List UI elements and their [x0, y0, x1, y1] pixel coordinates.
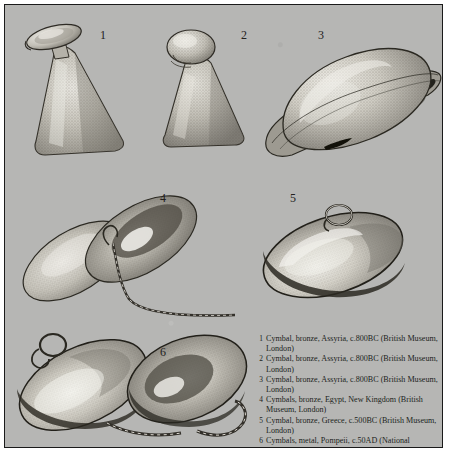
caption-entry-2: 2 Cymbal, bronze, Assyria, c.800BC (Brit…: [255, 354, 441, 374]
illustration-plate: 1 2 3 4 5 6 1 Cymbal, bronze, Assyria, c…: [4, 4, 443, 448]
caption-index: 5: [255, 416, 266, 436]
caption-index: 2: [255, 354, 266, 374]
caption-entry-1: 1 Cymbal, bronze, Assyria, c.800BC (Brit…: [255, 334, 441, 354]
figure-number-4: 4: [160, 192, 166, 204]
caption-entry-3: 3 Cymbal, bronze, Assyria, c.800BC (Brit…: [255, 375, 441, 395]
caption-entry-5: 5 Cymbal, bronze, Greece, c.500BC (Briti…: [255, 416, 441, 436]
figure-5-cymbal-flat-disc-ring: [253, 193, 413, 308]
caption-text: Cymbal, bronze, Greece, c.500BC (British…: [266, 416, 441, 436]
figure-4-cymbal-pair-chained: [13, 183, 248, 323]
caption-text: Cymbal, bronze, Assyria, c.800BC (Britis…: [266, 354, 441, 374]
figure-number-2: 2: [241, 29, 247, 41]
caption-entry-4: 4 Cymbals, bronze, Egypt, New Kingdom (B…: [255, 395, 441, 415]
figure-number-3: 3: [318, 29, 324, 41]
caption-text: Cymbal, bronze, Assyria, c.800BC (Britis…: [266, 375, 441, 395]
figure-number-1: 1: [100, 29, 106, 41]
figure-number-6: 6: [160, 346, 166, 358]
caption-block: 1 Cymbal, bronze, Assyria, c.800BC (Brit…: [255, 334, 441, 448]
caption-index: 3: [255, 375, 266, 395]
caption-entry-6: 6 Cymbals, metal, Pompeii, c.50AD (Natio…: [255, 436, 441, 448]
caption-index: 4: [255, 395, 266, 415]
screenshot-root: 1 2 3 4 5 6 1 Cymbal, bronze, Assyria, c…: [0, 0, 451, 460]
caption-text: Cymbal, bronze, Assyria, c.800BC (Britis…: [266, 334, 441, 354]
figure-1-cymbal-conical-bell: [11, 15, 141, 165]
caption-index: 1: [255, 334, 266, 354]
figure-number-5: 5: [290, 192, 296, 204]
figure-6-cymbal-pair-chained: [11, 327, 251, 448]
caption-text: Cymbals, bronze, Egypt, New Kingdom (Bri…: [266, 395, 441, 415]
figure-3-cymbal-domed-large: [258, 23, 443, 173]
caption-text: Cymbals, metal, Pompeii, c.50AD (Nationa…: [266, 436, 441, 448]
figure-2-cymbal-conical-bell: [151, 23, 261, 158]
caption-index: 6: [255, 436, 266, 448]
